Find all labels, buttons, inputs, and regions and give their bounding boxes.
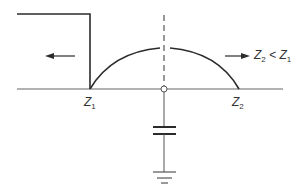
transmitted-wave-curve <box>170 48 239 89</box>
cond-operator: < <box>266 48 280 62</box>
z2-subscript: 2 <box>239 102 243 111</box>
arrowhead-left-icon <box>45 53 54 59</box>
cond-b-base: Z <box>279 48 286 62</box>
incident-step-wave <box>17 14 90 89</box>
junction-node <box>161 86 167 92</box>
label-condition: Z2 < Z1 <box>254 48 291 64</box>
circuit-diagram <box>0 0 302 195</box>
label-z2: Z2 <box>232 95 244 111</box>
ground-icon <box>153 172 176 183</box>
label-z1: Z1 <box>84 95 96 111</box>
arrowhead-right-icon <box>241 53 250 59</box>
cond-b-sub: 1 <box>287 55 291 64</box>
z1-subscript: 1 <box>91 102 95 111</box>
reflected-wave-curve <box>90 48 160 89</box>
